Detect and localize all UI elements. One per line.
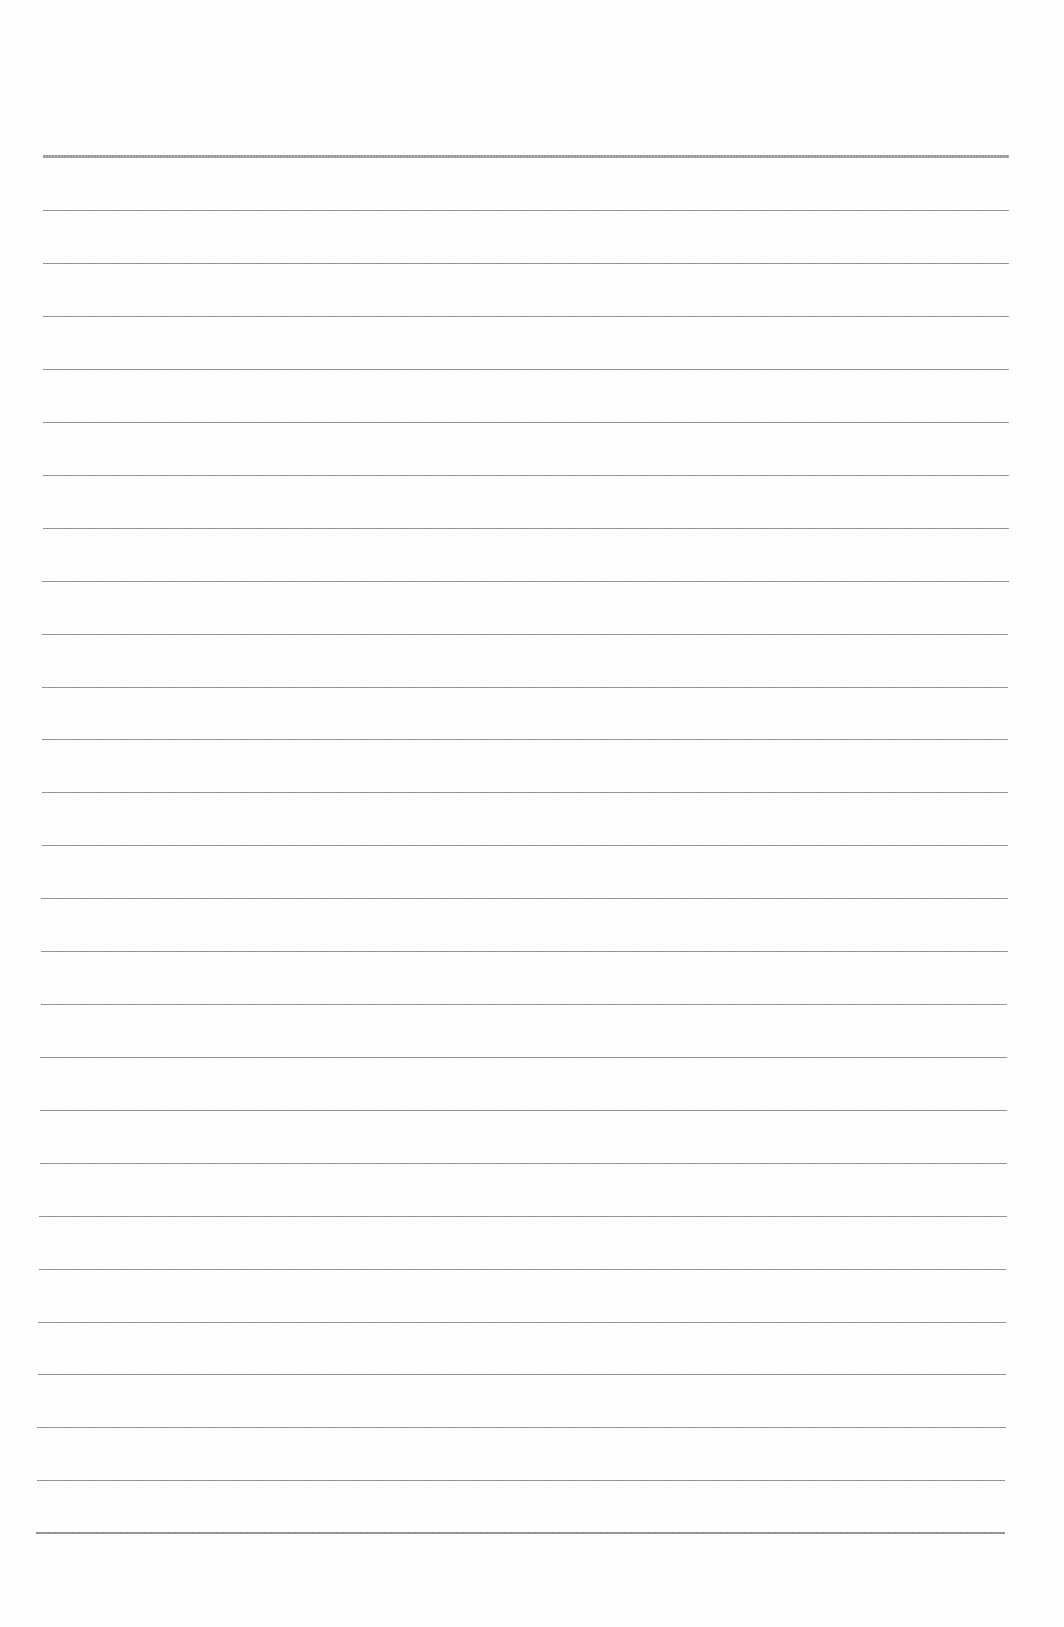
ruled-line	[39, 1216, 1007, 1217]
ruled-line	[43, 422, 1009, 423]
ruled-line	[42, 634, 1008, 635]
ruled-line	[42, 739, 1008, 740]
ruled-line	[40, 1163, 1007, 1164]
ruled-line	[40, 1057, 1007, 1058]
ruled-line	[42, 687, 1008, 688]
ruled-line	[37, 1427, 1006, 1428]
ruled-line	[38, 1374, 1006, 1375]
ruled-line	[41, 1004, 1007, 1005]
ruled-line	[43, 210, 1009, 211]
ruled-line	[39, 1269, 1006, 1270]
ruled-line	[43, 528, 1009, 529]
ruled-line	[41, 951, 1008, 952]
ruled-line	[43, 369, 1009, 370]
ruled-line	[36, 1532, 1005, 1534]
ruled-line	[40, 1110, 1007, 1111]
ruled-line	[41, 898, 1008, 899]
ruled-line	[43, 155, 1009, 158]
lined-paper-page	[0, 0, 1064, 1627]
ruled-line	[42, 792, 1008, 793]
ruled-line	[43, 475, 1009, 476]
ruled-line	[42, 845, 1008, 846]
ruled-line	[38, 1322, 1006, 1323]
ruled-line	[42, 581, 1009, 582]
ruled-line	[43, 263, 1009, 264]
ruled-line	[43, 316, 1009, 317]
ruled-line	[37, 1480, 1005, 1481]
